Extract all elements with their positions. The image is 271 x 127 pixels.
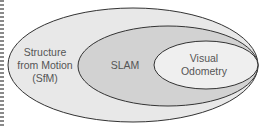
sfm-label-line1: Structure <box>24 46 67 58</box>
vo-label-line1: Visual <box>190 52 218 64</box>
vo-label-line2: Odometry <box>181 65 228 77</box>
slam-label: SLAM <box>111 59 140 71</box>
diagram-canvas: Structure from Motion (SfM) SLAM Visual … <box>0 0 271 127</box>
sfm-label-line3: (SfM) <box>32 72 58 84</box>
sfm-label-line2: from Motion <box>17 59 73 71</box>
nested-ellipses: Structure from Motion (SfM) SLAM Visual … <box>0 0 271 127</box>
